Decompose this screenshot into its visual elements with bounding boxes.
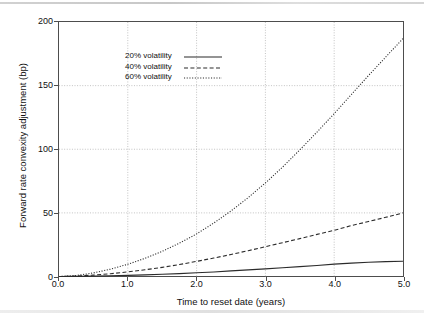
x-tick-label: 0.0 <box>38 280 78 289</box>
legend-item: 20% volatility <box>125 51 229 62</box>
x-tick-mark <box>335 277 336 281</box>
x-tick-mark <box>196 277 197 281</box>
x-axis-label: Time to reset date (years) <box>58 296 404 307</box>
legend-line-sample <box>183 64 223 70</box>
legend-label: 60% volatility <box>125 72 183 83</box>
legend: 20% volatility40% volatility60% volatili… <box>121 48 231 86</box>
x-tick-label: 3.0 <box>246 280 286 289</box>
x-tick-label: 1.0 <box>107 280 147 289</box>
y-tick-label: 100 <box>19 145 53 154</box>
x-tick-mark <box>266 277 267 281</box>
x-tick-mark <box>58 277 59 281</box>
scan-artifact-top <box>0 2 424 4</box>
x-tick-mark <box>404 277 405 281</box>
legend-label: 20% volatility <box>125 51 183 62</box>
x-tick-label: 5.0 <box>384 280 424 289</box>
legend-line-sample <box>183 53 223 59</box>
legend-item: 40% volatility <box>125 62 229 73</box>
x-tick-mark <box>127 277 128 281</box>
legend-label: 40% volatility <box>125 62 183 73</box>
x-tick-label: 4.0 <box>315 280 355 289</box>
series-line-1 <box>59 213 403 277</box>
plot-area: 20% volatility40% volatility60% volatili… <box>58 21 404 277</box>
y-tick-label: 200 <box>19 17 53 26</box>
figure: Forward rate convexity adjustment (bp) T… <box>0 0 424 313</box>
y-tick-label: 50 <box>19 209 53 218</box>
y-tick-label: 150 <box>19 81 53 90</box>
legend-line-sample <box>183 74 223 80</box>
legend-item: 60% volatility <box>125 72 229 83</box>
x-tick-label: 2.0 <box>176 280 216 289</box>
